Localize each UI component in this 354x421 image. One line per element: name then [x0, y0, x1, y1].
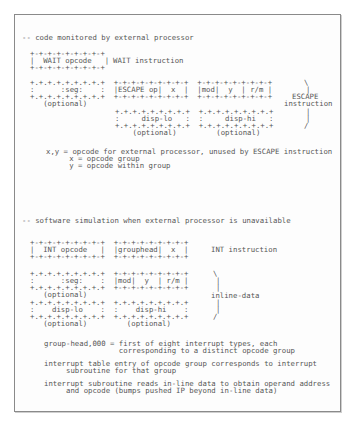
note-line: subroutine for that group [44, 367, 176, 374]
note-line: y = opcode within group [56, 162, 170, 169]
brace-char: | [216, 284, 220, 291]
brace-char: / [213, 313, 217, 320]
optional-label: (optional) [30, 291, 87, 298]
section-heading-external: -- code monitored by external processor [22, 34, 194, 41]
optional-label: (optional) (optional) [115, 129, 260, 136]
int-row: +-+-+-+-+-+-+-+-+ +-+-+-+-+-+-+-+-+ [30, 253, 189, 260]
wait-box-bottom: +-+-+-+-+-+-+-+-+ [30, 64, 105, 71]
section-heading-software: -- software simulation when external pro… [22, 217, 291, 224]
note-line: corresponding to a distinct opcode group [44, 347, 295, 354]
optional-label: (optional) (optional) [30, 320, 171, 327]
escape-brace-label: instruction [284, 100, 332, 107]
optional-label: (optional) [30, 100, 87, 107]
brace-char: / [304, 122, 308, 129]
wait-instruction-label: WAIT instruction [113, 57, 183, 64]
note-line: and opcode (bumps pushed IP beyond in-li… [44, 387, 277, 394]
int-instruction-label: INT instruction [211, 246, 277, 253]
